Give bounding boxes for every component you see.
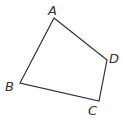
vertex-label-c: C xyxy=(88,103,98,118)
quadrilateral-abcd xyxy=(20,18,107,101)
vertex-label-d: D xyxy=(109,51,119,66)
vertex-label-a: A xyxy=(47,3,57,18)
quadrilateral-diagram: A D C B xyxy=(0,0,123,121)
vertex-label-b: B xyxy=(5,79,14,94)
